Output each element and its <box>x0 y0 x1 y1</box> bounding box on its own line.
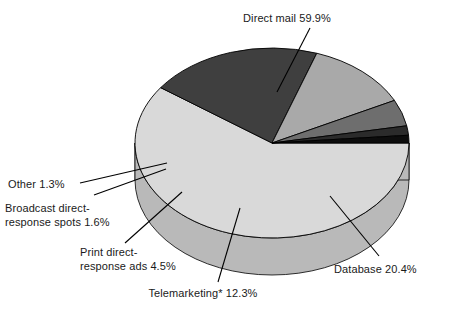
slice-label-database: Database 20.4% <box>334 263 417 275</box>
pie-top-faces <box>135 48 409 238</box>
slice-label-direct-mail: Direct mail 59.9% <box>243 12 331 24</box>
pie-chart-svg: Direct mail 59.9% Database 20.4% Telemar… <box>0 0 452 312</box>
slice-label-broadcast-line1: Broadcast direct- <box>5 202 90 214</box>
pie-chart-figure: Direct mail 59.9% Database 20.4% Telemar… <box>0 0 452 312</box>
slice-label-other: Other 1.3% <box>8 178 65 190</box>
slice-label-telemarketing: Telemarketing* 12.3% <box>148 287 257 299</box>
slice-label-print-line2: response ads 4.5% <box>80 260 176 272</box>
slice-label-broadcast-line2: response spots 1.6% <box>5 216 110 228</box>
slice-label-print-line1: Print direct- <box>80 246 138 258</box>
